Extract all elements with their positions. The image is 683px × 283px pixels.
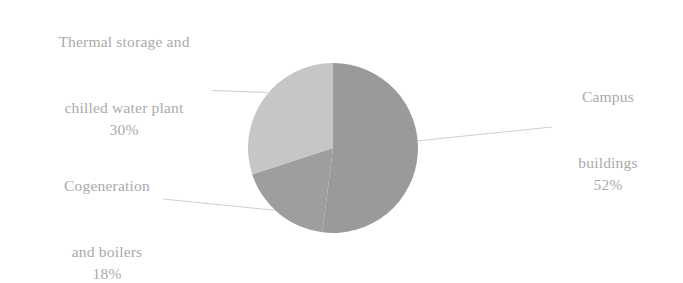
- pie-label-campus-percent: 52%: [543, 174, 673, 196]
- pie-label-thermal-storage: Thermal storage and chilled water plant …: [10, 9, 238, 163]
- pie-label-cogeneration: Cogeneration and boilers 18%: [12, 153, 202, 283]
- leader-line-campus: [416, 127, 552, 141]
- pie-label-cogeneration-line2: and boilers: [72, 243, 143, 260]
- pie-label-thermal-line1: Thermal storage and: [58, 33, 189, 50]
- pie-label-campus-line2: buildings: [578, 154, 638, 171]
- pie-label-cogeneration-percent: 18%: [12, 263, 202, 283]
- pie-label-campus-line1: Campus: [582, 88, 634, 105]
- pie-slice-campus-buildings: [322, 63, 418, 233]
- pie-label-campus-buildings: Campus buildings 52%: [543, 64, 673, 218]
- pie-label-thermal-percent: 30%: [10, 119, 238, 141]
- pie-label-cogeneration-line1: Cogeneration: [64, 177, 150, 194]
- pie-label-thermal-line2: chilled water plant: [64, 99, 183, 116]
